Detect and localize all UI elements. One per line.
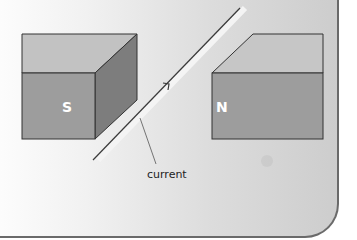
current-callout: current xyxy=(140,118,187,181)
callout-leader-line xyxy=(140,118,156,164)
magnet-wire-diagram: S N current xyxy=(0,0,357,240)
background-smudge xyxy=(261,155,273,167)
south-magnet-front-face xyxy=(22,73,95,139)
north-magnet-front-face xyxy=(212,73,323,139)
north-magnet: N xyxy=(212,34,323,139)
north-pole-label: N xyxy=(216,99,228,115)
diagram-canvas: S N current xyxy=(0,0,357,240)
south-pole-label: S xyxy=(62,99,72,115)
south-magnet: S xyxy=(22,34,137,139)
north-magnet-top-face xyxy=(212,34,323,73)
current-label: current xyxy=(147,168,187,181)
